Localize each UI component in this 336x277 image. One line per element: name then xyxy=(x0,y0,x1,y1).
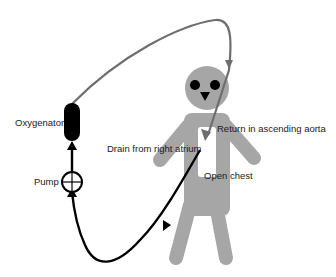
bypass-diagram: Oxygenator Pump Drain from right atrium … xyxy=(0,0,336,277)
return-label: Return in ascending aorta xyxy=(217,124,326,134)
pump-icon xyxy=(62,172,82,192)
right-eye xyxy=(210,80,220,90)
left-eye xyxy=(190,80,200,90)
open-chest-label: Open chest xyxy=(204,171,253,181)
drain-arrow-mid-icon xyxy=(163,220,171,231)
diagram-graphics xyxy=(0,0,336,277)
return-arrow-mid-icon xyxy=(225,60,233,69)
human-figure xyxy=(160,66,254,258)
pump-label: Pump xyxy=(34,177,59,187)
drain-label: Drain from right atrium xyxy=(107,144,202,154)
oxygenator-icon xyxy=(64,103,80,141)
oxygenator-label: Oxygenator xyxy=(15,118,64,128)
oxygenator-arrow-icon xyxy=(67,141,77,150)
